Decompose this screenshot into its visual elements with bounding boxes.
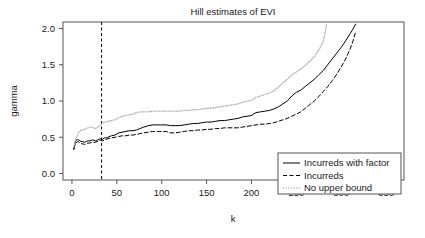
chart-legend[interactable]: Incurreds with factorIncurredsNo upper b… [278,153,401,194]
y-tick-label: 0.5 [42,132,55,143]
x-tick-label: 100 [154,187,170,198]
chart-title: Hill estimates of EVI [191,6,276,17]
y-tick-label: 0.0 [42,168,55,179]
figure-background [0,0,425,238]
x-axis-title: k [231,213,236,224]
x-tick-label: 0 [69,187,74,198]
x-tick-label: 200 [244,187,260,198]
legend-label: No upper bound [304,182,372,193]
y-tick-label: 1.0 [42,95,55,106]
legend-label: Incurreds [304,170,344,181]
x-tick-label: 50 [112,187,123,198]
chart-figure: Hill estimates of EVI 0.00.51.01.52.0 05… [0,0,425,238]
x-tick-label: 150 [199,187,215,198]
y-tick-label: 2.0 [42,23,55,34]
hill-estimates-plot: Hill estimates of EVI 0.00.51.01.52.0 05… [0,0,425,238]
legend-label: Incurreds with factor [304,157,390,168]
y-tick-label: 1.5 [42,59,55,70]
y-axis-title: gamma [8,84,19,116]
